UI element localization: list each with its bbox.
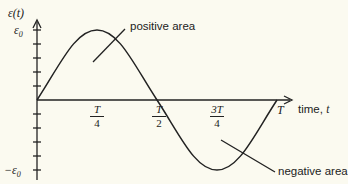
- x-axis-label: time, t: [298, 103, 329, 115]
- y-axis-label: ε(t): [8, 6, 24, 21]
- positive-area-label: positive area: [130, 20, 195, 32]
- neg-eps0-tick-label: −ε0: [4, 163, 21, 179]
- sine-emf-chart: ε(t) ε0 −ε0 T4 T2 3T4 T time, t positive…: [0, 0, 348, 184]
- negative-area-label: negative area: [278, 165, 348, 177]
- tick-3T4: 3T4: [207, 104, 227, 129]
- tick-T4: T4: [87, 104, 107, 129]
- eps0-tick-label: ε0: [14, 23, 23, 39]
- tick-T2: T2: [149, 104, 169, 129]
- tick-T: T: [277, 103, 284, 118]
